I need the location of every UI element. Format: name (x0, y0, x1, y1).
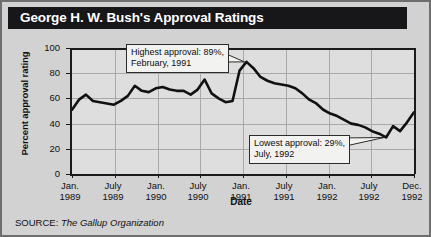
annotation-lowest-line1: Lowest approval: 29%, (254, 138, 345, 149)
annotation-highest-line1: Highest approval: 89%, (131, 47, 224, 58)
annotation-highest-approval: Highest approval: 89%, February, 1991 (126, 44, 229, 73)
annotation-leader-lines (2, 2, 431, 237)
chart-figure: George H. W. Bush's Approval Ratings Per… (0, 0, 431, 237)
annotation-lowest-line2: July, 1992 (254, 149, 345, 160)
annotation-highest-line2: February, 1991 (131, 58, 224, 69)
annotation-lowest-approval: Lowest approval: 29%, July, 1992 (249, 135, 350, 164)
